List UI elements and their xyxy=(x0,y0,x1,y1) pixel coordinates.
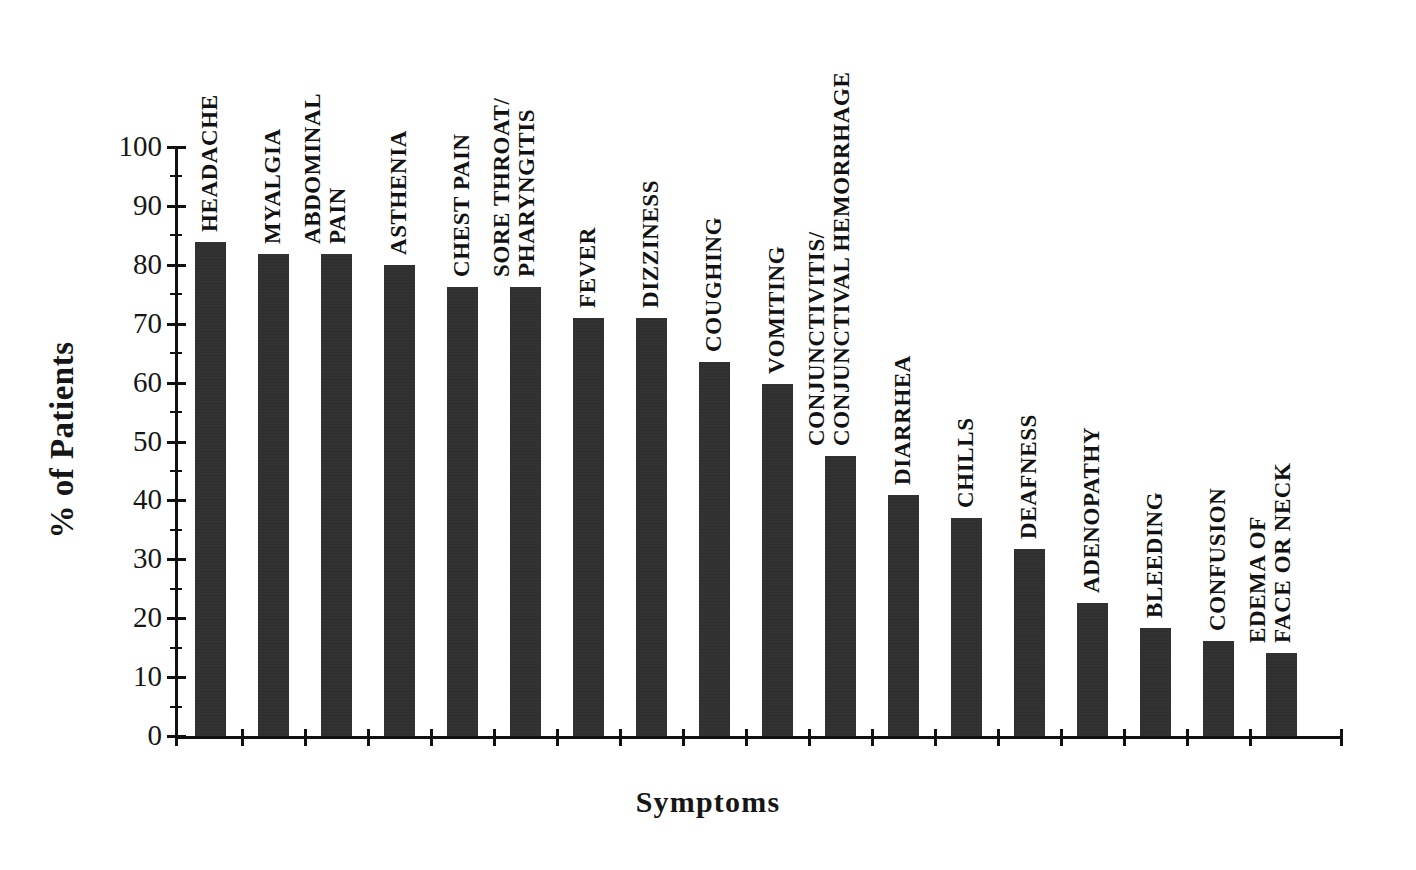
y-tick-label-30: 30 xyxy=(92,544,162,573)
bar-label: ABDOMINALPAIN xyxy=(300,93,350,244)
bar-label-line1: FEVER xyxy=(575,227,600,308)
x-tick-1 xyxy=(304,729,307,746)
bar-label-line1: VOMITING xyxy=(764,246,789,374)
bar-label-line1: MYALGIA xyxy=(260,128,285,244)
bar xyxy=(825,456,856,736)
bar-label: CHEST PAIN xyxy=(449,133,474,277)
x-tick-start xyxy=(175,729,178,746)
x-tick-11 xyxy=(934,729,937,746)
x-tick-13 xyxy=(1060,729,1063,746)
bar-label-line1: ASTHENIA xyxy=(386,130,411,255)
y-tick-40 xyxy=(167,499,186,502)
bar-label: EDEMA OFFACE OR NECK xyxy=(1245,462,1295,643)
bar-label-line2: PAIN xyxy=(325,93,350,244)
bar-label: DIARRHEA xyxy=(890,354,915,484)
y-tick-label-40: 40 xyxy=(92,485,162,514)
bar-label: CHILLS xyxy=(953,418,978,509)
bar-label-line1: DIZZINESS xyxy=(638,180,663,308)
bar-label: HEADACHE xyxy=(197,95,222,233)
bar-chart: % of Patients 0102030405060708090100 HEA… xyxy=(0,0,1416,870)
y-tick-20 xyxy=(167,617,186,620)
x-tick-end xyxy=(1340,729,1343,746)
y-tick-label-0: 0 xyxy=(92,721,162,750)
bar-label-line1: BLEEDING xyxy=(1142,492,1167,618)
bar-label: DEAFNESS xyxy=(1016,414,1041,539)
bar xyxy=(384,265,415,736)
bar xyxy=(762,384,793,736)
y-tick-minor-55 xyxy=(170,411,182,413)
y-tick-10 xyxy=(167,676,186,679)
bar-label-line1: DEAFNESS xyxy=(1016,414,1041,539)
bar-label-line1: CHILLS xyxy=(953,418,978,509)
bar xyxy=(1140,628,1171,736)
bar-label-line2: FACE OR NECK xyxy=(1270,462,1295,643)
x-tick-3 xyxy=(430,729,433,746)
y-tick-label-10: 10 xyxy=(92,662,162,691)
y-tick-minor-5 xyxy=(170,706,182,708)
bar-label-line1: COUGHING xyxy=(701,217,726,352)
y-tick-label-90: 90 xyxy=(92,191,162,220)
bar-label-line1: SORE THROAT/ xyxy=(489,97,514,277)
y-tick-label-60: 60 xyxy=(92,368,162,397)
bar xyxy=(888,495,919,736)
plot-area: 0102030405060708090100 HEADACHEMYALGIAAB… xyxy=(0,0,1416,870)
x-tick-7 xyxy=(682,729,685,746)
bar-label: SORE THROAT/PHARYNGITIS xyxy=(489,97,539,277)
bar-label-line1: ADENOPATHY xyxy=(1079,427,1104,593)
y-tick-minor-65 xyxy=(170,352,182,354)
bar-label-line1: ABDOMINAL xyxy=(300,93,325,244)
y-tick-minor-25 xyxy=(170,588,182,590)
y-tick-label-80: 80 xyxy=(92,250,162,279)
bar-label-line1: EDEMA OF xyxy=(1245,516,1270,643)
bar xyxy=(258,254,289,736)
y-tick-minor-85 xyxy=(170,234,182,236)
bar-label: ASTHENIA xyxy=(386,130,411,255)
y-tick-label-20: 20 xyxy=(92,603,162,632)
x-axis-title: Symptoms xyxy=(0,785,1416,819)
y-tick-minor-35 xyxy=(170,529,182,531)
y-tick-minor-95 xyxy=(170,175,182,177)
x-tick-5 xyxy=(556,729,559,746)
y-tick-90 xyxy=(167,205,186,208)
bar xyxy=(1077,603,1108,736)
y-tick-50 xyxy=(167,441,186,444)
x-tick-8 xyxy=(745,729,748,746)
bar xyxy=(951,518,982,736)
x-tick-16 xyxy=(1249,729,1252,746)
bar-label-line1: CONJUNCTIVITIS/ xyxy=(804,231,829,446)
y-tick-30 xyxy=(167,558,186,561)
bar-label: MYALGIA xyxy=(260,128,285,244)
bar-label: ADENOPATHY xyxy=(1079,427,1104,593)
x-tick-0 xyxy=(241,729,244,746)
bar-label: COUGHING xyxy=(701,217,726,352)
bar-label-line1: HEADACHE xyxy=(197,95,222,233)
x-tick-12 xyxy=(997,729,1000,746)
bar xyxy=(699,362,730,736)
bar xyxy=(510,287,541,736)
y-tick-100 xyxy=(167,146,186,149)
bar-label-line1: DIARRHEA xyxy=(890,354,915,484)
bar-label: CONFUSION xyxy=(1205,488,1230,631)
x-tick-10 xyxy=(871,729,874,746)
x-tick-9 xyxy=(808,729,811,746)
bar-label: BLEEDING xyxy=(1142,492,1167,618)
bar-label-line1: CONFUSION xyxy=(1205,488,1230,631)
y-tick-minor-45 xyxy=(170,470,182,472)
bar-label: VOMITING xyxy=(764,246,789,374)
x-tick-15 xyxy=(1186,729,1189,746)
y-tick-label-50: 50 xyxy=(92,427,162,456)
bar-label-line1: CHEST PAIN xyxy=(449,133,474,277)
y-tick-minor-75 xyxy=(170,293,182,295)
x-tick-14 xyxy=(1123,729,1126,746)
bar xyxy=(1014,549,1045,736)
y-tick-80 xyxy=(167,264,186,267)
x-axis-line xyxy=(175,736,1343,739)
bar xyxy=(1203,641,1234,736)
bar-label: DIZZINESS xyxy=(638,180,663,308)
bar xyxy=(1266,653,1297,736)
bar xyxy=(321,254,352,736)
bar-label: CONJUNCTIVITIS/CONJUNCTIVAL HEMORRHAGE xyxy=(804,72,854,446)
bar-label: FEVER xyxy=(575,227,600,308)
y-tick-60 xyxy=(167,382,186,385)
x-tick-4 xyxy=(493,729,496,746)
